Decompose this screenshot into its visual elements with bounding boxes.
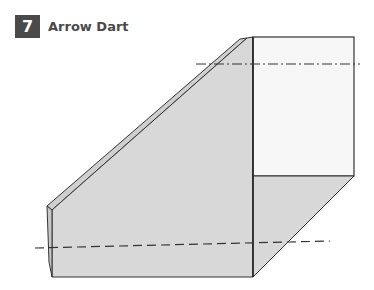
left-edge-flap: [47, 206, 52, 277]
main-shaded-face: [52, 37, 253, 277]
white-panel: [253, 37, 354, 176]
fold-diagram: [0, 0, 374, 290]
lower-triangle-face: [253, 176, 354, 277]
